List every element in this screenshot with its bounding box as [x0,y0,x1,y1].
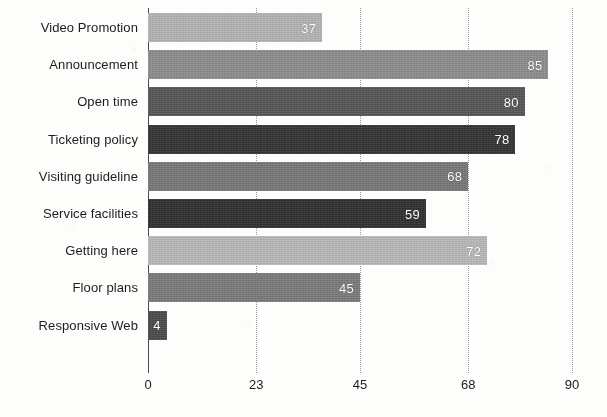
bar[interactable] [148,273,360,302]
category-label: Announcement [0,50,138,79]
bar-value-label: 4 [153,318,161,333]
bar-row[interactable]: 59 [148,199,426,228]
bar-row[interactable]: 45 [148,273,360,302]
x-tick-label: 23 [249,377,263,392]
bar[interactable] [148,162,468,191]
bar-value-label: 68 [447,169,462,184]
category-label: Getting here [0,236,138,265]
bar-row[interactable]: 80 [148,87,525,116]
x-tick-label: 90 [565,377,579,392]
bar-row[interactable]: 78 [148,125,515,154]
x-tick-label: 45 [353,377,367,392]
bar[interactable] [148,87,525,116]
bar-value-label: 37 [301,20,316,35]
bar-value-label: 72 [466,243,481,258]
bar-row[interactable]: 72 [148,236,487,265]
x-tick-label: 68 [461,377,475,392]
bar-value-label: 80 [504,94,519,109]
bar-row[interactable]: 4 [148,311,167,340]
bar-chart: Video PromotionAnnouncementOpen timeTick… [0,0,607,417]
category-label: Visiting guideline [0,162,138,191]
bar[interactable] [148,13,322,42]
bar-row[interactable]: 85 [148,50,548,79]
x-tick-label: 0 [144,377,151,392]
category-label: Ticketing policy [0,125,138,154]
bar-value-label: 59 [405,206,420,221]
category-label: Open time [0,87,138,116]
bar-value-label: 45 [339,280,354,295]
bar[interactable] [148,125,515,154]
category-label: Service facilities [0,199,138,228]
bar-row[interactable]: 37 [148,13,322,42]
category-label: Floor plans [0,273,138,302]
gridline-90 [572,8,574,373]
bar-row[interactable]: 68 [148,162,468,191]
bar-value-label: 85 [527,57,542,72]
bar-value-label: 78 [494,132,509,147]
bar[interactable] [148,199,426,228]
bar[interactable] [148,50,548,79]
y-axis-category-labels: Video PromotionAnnouncementOpen timeTick… [0,8,138,373]
x-axis-tick-labels: 023456890 [148,373,572,403]
bar[interactable] [148,236,487,265]
category-label: Video Promotion [0,13,138,42]
category-label: Responsive Web [0,311,138,340]
plot-area: 37858078685972454 [148,8,572,373]
